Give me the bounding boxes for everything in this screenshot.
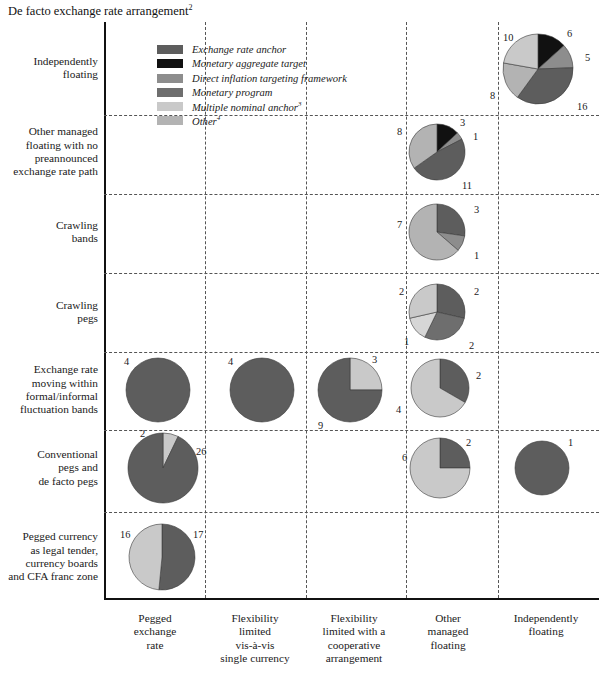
legend-label: Monetary aggregate target [192,58,306,69]
legend-label: Exchange rate anchor [192,44,286,55]
legend-item-1[interactable]: Monetary aggregate target [157,57,347,71]
pie-slice-value-label: 6 [567,28,572,39]
pie-slice-value-label: 26 [196,446,206,457]
pie-slice-value-label: 4 [228,356,233,367]
legend-label: Direct inflation targeting framework [192,73,347,84]
legend: Exchange rate anchorMonetary aggregate t… [157,43,347,128]
legend-swatch-icon [157,116,183,125]
legend-swatch-icon [157,74,183,83]
legend-item-4[interactable]: Multiple nominal anchor3 [157,100,347,114]
legend-label: Other4 [192,114,220,127]
row-label-line: floating with no [0,139,98,152]
pie-slice [230,358,294,422]
pie-slice-value-label: 1 [474,250,479,261]
row-label-line: Other managed [0,125,98,138]
pie-slice-value-label: 1 [473,131,478,142]
row-label-pegged-currency: Pegged currencyas legal tender,currency … [0,530,98,584]
pie-slice [159,524,195,590]
legend-label: Monetary program [192,87,273,98]
pie-chart-10 [514,440,570,496]
grid-hline-4 [104,430,599,431]
row-label-line: exchange rate path [0,165,98,178]
pie-chart-8 [127,432,199,504]
legend-swatch-icon [157,102,183,111]
pie-chart-2 [408,203,466,261]
pie-slice-value-label: 3 [372,354,377,365]
row-label-line: moving within [0,377,98,390]
pie-slice-value-label: 7 [397,219,402,230]
grid-hline-3 [104,352,599,353]
legend-item-2[interactable]: Direct inflation targeting framework [157,71,347,85]
legend-item-3[interactable]: Monetary program [157,86,347,100]
pie-chart-11 [128,523,196,591]
legend-swatch-icon [157,59,183,68]
pie-slice-value-label: 1 [568,437,573,448]
pie-chart-0 [502,33,574,105]
pie-slice-value-label: 17 [193,529,203,540]
pie-slice-value-label: 2 [476,370,481,381]
axis-left [104,22,106,600]
pie-slice-value-label: 3 [474,204,479,215]
legend-item-5[interactable]: Other4 [157,114,347,128]
row-label-line: Independently [0,55,98,68]
column-label-independently-floating: Independentlyfloating [486,612,602,639]
row-label-crawling-pegs: Crawlingpegs [0,299,98,326]
pie-chart-6 [317,357,383,423]
legend-label-superscript: 4 [217,114,221,122]
column-label-line: floating [486,625,602,638]
pie-slice-value-label: 8 [397,126,402,137]
row-label-line: currency boards [0,557,98,570]
row-label-line: Pegged currency [0,530,98,543]
grid-hline-1 [104,194,599,195]
row-label-line: pegs [0,312,98,325]
pie-slice-value-label: 5 [585,52,590,63]
column-label-line: Independently [486,612,602,625]
pie-slice [126,358,190,422]
row-label-line: Crawling [0,219,98,232]
axis-bottom [104,598,599,600]
row-label-independently-floating: Independentlyfloating [0,55,98,82]
row-label-conventional-pegs: Conventionalpegs andde facto pegs [0,448,98,488]
pie-matrix-chart: De facto exchange rate arrangement2 Inde… [0,0,602,673]
legend-item-0[interactable]: Exchange rate anchor [157,43,347,57]
pie-slice [515,441,569,495]
row-label-line: preannounced [0,152,98,165]
pie-slice-value-label: 9 [318,420,323,431]
row-label-line: Crawling [0,299,98,312]
pie-slice-value-label: 3 [460,117,465,128]
row-label-other-managed-floating: Other managedfloating with nopreannounce… [0,125,98,179]
pie-slice [128,433,198,503]
page-title: De facto exchange rate arrangement2 [8,3,192,19]
pie-slice-value-label: 4 [396,404,401,415]
row-label-exchange-rate-moving-within-bands: Exchange ratemoving withinformal/informa… [0,363,98,417]
pie-chart-5 [229,357,295,423]
pie-chart-3 [408,283,466,341]
pie-slice-value-label: 2 [399,286,404,297]
row-label-line: floating [0,68,98,81]
pie-chart-1 [408,123,466,181]
legend-swatch-icon [157,88,183,97]
pie-slice-value-label: 2 [469,340,474,351]
pie-chart-7 [410,358,470,418]
pie-slice-value-label: 1 [404,336,409,347]
pie-chart-4 [125,357,191,423]
row-label-crawling-bands: Crawlingbands [0,219,98,246]
pie-slice-value-label: 16 [120,529,130,540]
pie-slice [437,204,465,236]
pie-slice-value-label: 2 [474,286,479,297]
legend-swatch-icon [157,45,183,54]
legend-label-superscript: 3 [298,100,302,108]
pie-slice-value-label: 2 [466,437,471,448]
pie-slice-value-label: 16 [577,101,587,112]
row-label-line: bands [0,232,98,245]
column-label-line: arrangement [294,652,414,665]
row-label-line: fluctuation bands [0,403,98,416]
pie-slice-value-label: 8 [490,90,495,101]
pie-slice [409,284,437,318]
row-label-line: de facto pegs [0,475,98,488]
page-title-text: De facto exchange rate arrangement [8,4,188,18]
legend-label: Multiple nominal anchor3 [192,100,301,113]
row-label-line: formal/informal [0,390,98,403]
row-label-line: Conventional [0,448,98,461]
column-label-line: floating [388,639,508,652]
